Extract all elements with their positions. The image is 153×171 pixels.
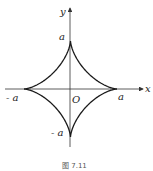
neg-y-tick-label: - a [51,127,64,138]
pos-y-tick-label: a [59,31,65,42]
figure-caption: 图 7.11 [62,162,87,170]
x-axis-label: x [145,83,151,94]
pos-x-tick-label: a [118,91,124,102]
y-axis-label: y [59,6,66,17]
astroid-figure: y x O a - a - a a 图 7.11 [0,0,153,171]
origin-label: O [72,94,80,105]
neg-x-tick-label: - a [6,92,19,103]
